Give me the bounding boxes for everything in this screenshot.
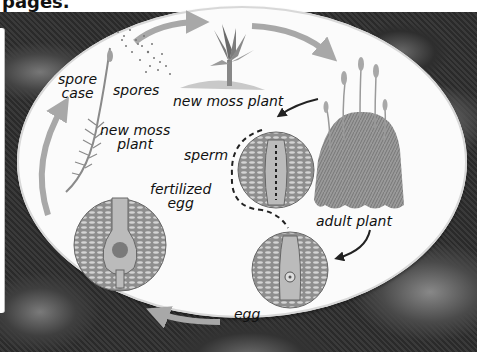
arrow-left-upward [42,105,64,215]
label-sperm: sperm [184,148,228,162]
egg-structure-circle [252,232,328,308]
label-adult-plant: adult plant [316,214,392,228]
label-spore-case: spore case [58,72,97,100]
new-moss-sprout-illustration [180,24,265,90]
moss-with-spore-case-illustration [66,48,113,192]
label-spores: spores [113,83,159,97]
adult-moss-plant-illustration [314,57,404,209]
arrow-sprout-to-sperm-structure [280,99,318,115]
label-new-moss-plant-left: new moss plant [100,123,170,151]
spores-cloud [117,29,171,75]
label-fertilized-egg-line1: fertilized [150,182,211,196]
fertilized-egg-circle [74,198,166,291]
label-spore-case-line1: spore [58,72,97,86]
label-spore-case-line2: case [58,86,97,100]
arrow-egg-to-fertilized [155,312,220,322]
label-egg: egg [234,307,260,321]
sperm-structure-circle [238,132,314,208]
label-new-moss-plant-left-line1: new moss [100,123,170,137]
arrow-spores-to-sprout [135,22,200,42]
label-new-moss-plant-top: new moss plant [173,94,283,108]
label-fertilized-egg: fertilized egg [150,182,211,210]
arrow-sprout-to-adult [252,26,330,55]
moss-life-cycle-diagram [0,0,477,352]
label-fertilized-egg-line2: egg [150,196,211,210]
arrow-adult-to-egg-structure [338,230,370,258]
label-new-moss-plant-left-line2: plant [100,137,170,151]
